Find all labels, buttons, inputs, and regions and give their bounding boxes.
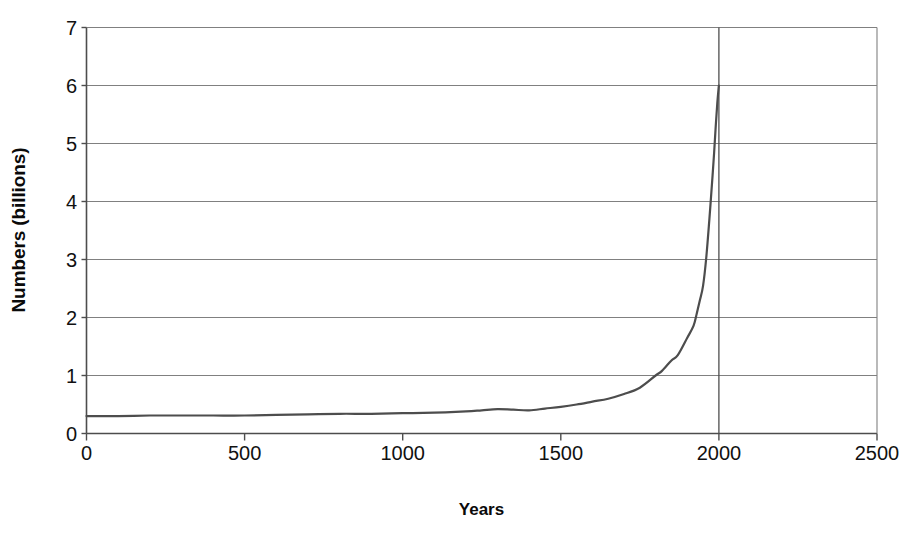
x-axis-tick-marks — [87, 434, 878, 441]
data-line-world-population — [87, 86, 719, 417]
grid-lines — [87, 28, 878, 376]
plot-area — [0, 0, 912, 543]
chart-container: Numbers (billions) 01234567 050010001500… — [0, 0, 912, 543]
data-series-group — [87, 86, 719, 417]
axis-frame — [82, 28, 878, 434]
